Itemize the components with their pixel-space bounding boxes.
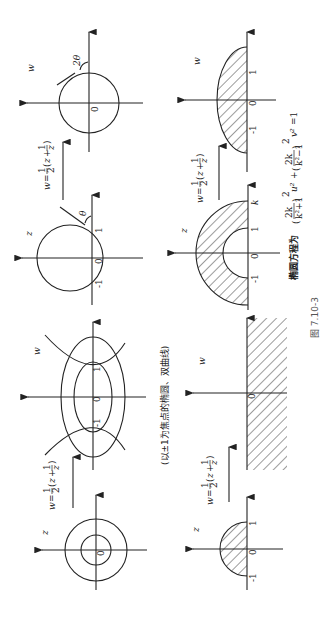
svg-text:z: z bbox=[42, 158, 52, 164]
panel-w-ellipses: w -1 0 1 (以±1为焦点的椭圆、双曲线) bbox=[28, 322, 170, 470]
svg-text:(: ( bbox=[291, 220, 301, 224]
svg-text:2: 2 bbox=[281, 138, 291, 144]
svg-text:(: ( bbox=[195, 176, 205, 180]
plane-label-w: w bbox=[192, 57, 202, 65]
svg-text:(: ( bbox=[47, 483, 57, 487]
tick-0: 0 bbox=[94, 258, 104, 264]
tick-1: 1 bbox=[248, 69, 258, 75]
plane-label-w: w bbox=[26, 64, 36, 72]
tick-minus1: -1 bbox=[248, 573, 258, 582]
mapping-arrow-row3: w = 1 2 ( z + 1 z ) bbox=[190, 146, 219, 203]
tick-0: 0 bbox=[247, 393, 257, 399]
mapping-arrow-row2: w = 1 2 ( z + 1 z ) bbox=[42, 457, 73, 510]
plane-label-z: z bbox=[191, 527, 201, 533]
panel-z-half-disk: z -1 0 1 bbox=[191, 497, 283, 590]
plane-label-z: z bbox=[40, 530, 50, 536]
svg-text:=1: =1 bbox=[289, 112, 299, 125]
figure-caption: 图 7.10-3 bbox=[310, 297, 320, 338]
svg-text:(: ( bbox=[291, 167, 301, 171]
svg-text:2: 2 bbox=[209, 482, 219, 488]
tick-1: 1 bbox=[250, 226, 260, 232]
svg-text:=: = bbox=[47, 494, 57, 502]
svg-text:z: z bbox=[46, 145, 56, 151]
angle-label-theta: θ bbox=[78, 210, 88, 216]
tick-1: 1 bbox=[92, 366, 102, 372]
svg-text:): ) bbox=[291, 198, 301, 202]
svg-text:w: w bbox=[195, 195, 205, 203]
tick-1: 1 bbox=[94, 227, 104, 233]
svg-text:z: z bbox=[209, 460, 219, 466]
panel-w-half-ellipse: w -1 0 1 bbox=[185, 32, 276, 172]
svg-text:2: 2 bbox=[46, 167, 56, 173]
plane-label-z: z bbox=[24, 231, 34, 237]
panel-w-half-plane: w 0 bbox=[193, 318, 287, 470]
panel-z-circle-theta: z θ -1 0 1 bbox=[22, 195, 143, 305]
svg-text:): ) bbox=[42, 140, 52, 144]
plane-label-w: w bbox=[32, 347, 42, 355]
svg-text:(: ( bbox=[205, 478, 215, 482]
svg-text:): ) bbox=[47, 460, 57, 464]
svg-text:z: z bbox=[205, 473, 215, 479]
panel-z-half-annulus: z -1 0 1 k bbox=[175, 185, 280, 310]
svg-text:w: w bbox=[42, 182, 52, 190]
tick-0: 0 bbox=[248, 549, 258, 555]
tick-0: 0 bbox=[96, 550, 106, 556]
svg-text:): ) bbox=[205, 455, 215, 459]
mapping-arrow-row4: w = 1 2 ( z + 1 z ) bbox=[200, 447, 229, 505]
svg-text:=: = bbox=[42, 174, 52, 182]
ellipse-equation-prefix: 椭圆方程为 bbox=[288, 235, 299, 280]
svg-text:w: w bbox=[47, 502, 57, 510]
svg-text:=: = bbox=[195, 187, 205, 195]
tick-minus1: -1 bbox=[248, 125, 258, 134]
svg-text:w: w bbox=[205, 497, 215, 505]
ellipse-equation: 椭圆方程为 ( 2k k²+1 ) 2 u² + ( 2k k²−1 ) 2 v… bbox=[281, 112, 304, 280]
tick-1: 1 bbox=[248, 520, 258, 526]
angle-label-2theta: 2θ bbox=[72, 54, 82, 67]
svg-text:): ) bbox=[195, 153, 205, 157]
tick-minus1: -1 bbox=[250, 274, 260, 283]
tick-k: k bbox=[250, 200, 260, 205]
tick-0: 0 bbox=[250, 253, 260, 259]
angle-arc bbox=[85, 216, 91, 223]
tick-0: 0 bbox=[92, 396, 102, 402]
ellipse-hyperbola-note: (以±1为焦点的椭圆、双曲线) bbox=[159, 346, 170, 465]
svg-text:2: 2 bbox=[199, 180, 209, 186]
svg-text:z: z bbox=[51, 465, 61, 471]
mapping-arrow-row1: w = 1 2 ( z + 1 z ) bbox=[37, 140, 63, 200]
svg-text:u²: u² bbox=[289, 182, 299, 192]
svg-text:): ) bbox=[291, 145, 301, 149]
svg-text:2: 2 bbox=[51, 487, 61, 493]
svg-text:z: z bbox=[195, 171, 205, 177]
mapping-formula: w = 1 2 ( z + 1 z ) bbox=[37, 140, 56, 190]
svg-text:2k: 2k bbox=[284, 153, 294, 165]
svg-text:+: + bbox=[289, 171, 299, 179]
plane-label-w: w bbox=[197, 357, 207, 365]
tick-0: 0 bbox=[248, 100, 258, 106]
hyperbola-lower bbox=[45, 428, 125, 455]
tick-minus1: -1 bbox=[92, 418, 102, 427]
svg-text:=: = bbox=[205, 489, 215, 497]
svg-text:2k: 2k bbox=[284, 206, 294, 218]
joukowski-figure: w 2θ 0 w = 1 2 ( z + 1 z ) z θ -1 0 1 bbox=[0, 0, 333, 619]
plane-label-z: z bbox=[179, 228, 189, 234]
svg-text:(: ( bbox=[42, 163, 52, 167]
panel-w-circle-2theta: w 2θ 0 bbox=[26, 32, 143, 152]
svg-text:v²: v² bbox=[289, 128, 299, 137]
tick-minus1: -1 bbox=[94, 279, 104, 288]
svg-text:z: z bbox=[47, 478, 57, 484]
svg-text:z: z bbox=[199, 158, 209, 164]
tick-0: 0 bbox=[90, 106, 100, 112]
